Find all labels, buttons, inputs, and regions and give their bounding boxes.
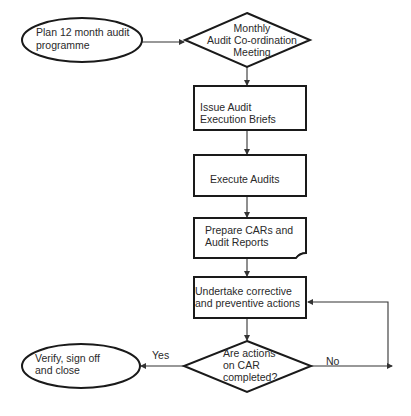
node-plan-audit-programme: Plan 12 month audit programme [22, 18, 142, 62]
node-monthly-meeting: Monthly Audit Co-ordination Meeting [185, 13, 310, 67]
node-plan-line-1: Plan 12 month audit [36, 26, 129, 38]
node-decision-line-1: Are actions [223, 347, 276, 359]
node-actions-completed-decision: Are actions on CAR completed? [184, 341, 311, 392]
node-execute-line-1: Execute Audits [210, 173, 279, 185]
edge-label-no: No [326, 355, 340, 367]
node-briefs-line-1: Issue Audit [200, 101, 251, 113]
node-corrective-actions: Undertake corrective and preventive acti… [194, 277, 306, 318]
node-decision-line-2: on CAR [223, 359, 260, 371]
node-corrective-line-1: Undertake corrective [195, 285, 292, 297]
node-reports-line-1: Prepare CARs and [205, 224, 293, 236]
audit-flowchart: Plan 12 month audit programme Monthly Au… [0, 0, 411, 416]
node-verify-close: Verify, sign off and close [22, 344, 140, 388]
node-meeting-line-3: Meeting [233, 46, 271, 58]
node-issue-briefs: Issue Audit Execution Briefs [194, 86, 306, 130]
node-execute-audits: Execute Audits [194, 155, 306, 196]
node-close-line-1: Verify, sign off [35, 352, 100, 364]
node-meeting-line-2: Audit Co-ordination [207, 34, 297, 46]
node-plan-line-2: programme [36, 39, 90, 51]
edge-no-loop-back [308, 302, 388, 366]
node-decision-line-3: completed? [223, 371, 277, 383]
node-prepare-reports: Prepare CARs and Audit Reports [194, 218, 306, 258]
node-reports-line-2: Audit Reports [205, 236, 269, 248]
node-close-line-2: and close [35, 364, 80, 376]
node-meeting-line-1: Monthly [234, 22, 272, 34]
node-corrective-line-2: and preventive actions [195, 297, 300, 309]
node-briefs-line-2: Execution Briefs [200, 113, 276, 125]
edge-label-yes: Yes [152, 349, 169, 361]
